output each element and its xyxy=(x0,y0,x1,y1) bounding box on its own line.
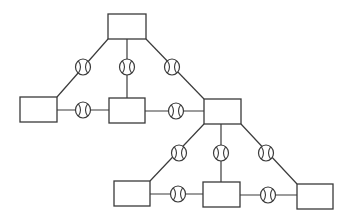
circle-with-arcs-icon xyxy=(259,145,274,161)
node-box-D xyxy=(204,99,241,124)
circle-with-arcs-icon xyxy=(76,102,91,118)
circle-with-arcs-icon xyxy=(214,145,229,161)
circle-with-arcs-icon xyxy=(169,103,184,119)
circle-with-arcs-icon xyxy=(76,59,91,75)
node-box-G xyxy=(297,184,333,209)
node-box-E xyxy=(114,181,150,206)
circle-with-arcs-icon xyxy=(171,186,186,202)
node-box-B xyxy=(20,97,57,122)
node-box-A xyxy=(108,14,146,39)
circle-with-arcs-icon xyxy=(261,187,276,203)
node-box-F xyxy=(203,182,240,207)
node-box-C xyxy=(109,98,145,123)
circle-with-arcs-icon xyxy=(172,145,187,161)
connection-symbols xyxy=(76,59,276,203)
circle-with-arcs-icon xyxy=(120,59,135,75)
network-diagram xyxy=(0,0,351,216)
circle-with-arcs-icon xyxy=(165,59,180,75)
